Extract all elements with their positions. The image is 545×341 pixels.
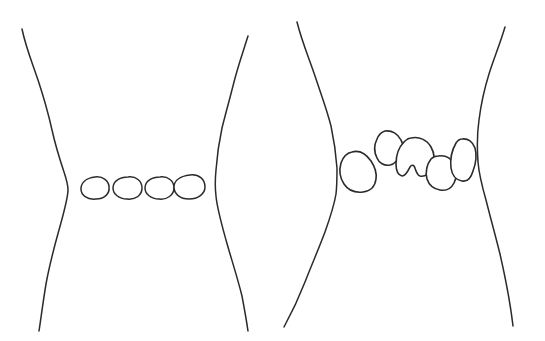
blob-oval-1	[81, 177, 109, 199]
blob-oval-2	[113, 177, 142, 199]
diagram-canvas	[0, 0, 545, 341]
figure-svg	[0, 0, 545, 341]
blob-oval-4	[174, 175, 205, 199]
blob-oval-3	[145, 177, 174, 199]
blob-irregular-5	[451, 139, 476, 181]
